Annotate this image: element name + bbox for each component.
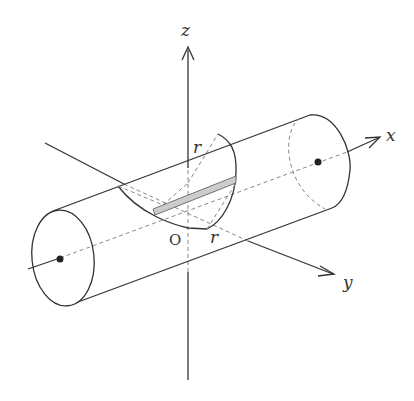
wedge-radius-left bbox=[118, 186, 163, 205]
y-axis-left bbox=[45, 143, 124, 184]
x-axis-label: x bbox=[386, 125, 396, 145]
wedge-strip bbox=[153, 176, 236, 215]
x-axis-right bbox=[347, 138, 378, 152]
cylinder-bottom-edge bbox=[78, 208, 332, 302]
right-center-dot bbox=[315, 159, 322, 166]
z-axis-label: z bbox=[180, 20, 191, 40]
radius-label-top: r bbox=[193, 137, 202, 157]
y-axis-label: y bbox=[342, 272, 353, 292]
x-axis-hidden bbox=[60, 152, 347, 258]
y-axis-right bbox=[248, 241, 333, 274]
origin-label: O bbox=[169, 231, 181, 249]
left-center-dot bbox=[57, 256, 64, 263]
wedge-front-curve bbox=[118, 134, 236, 229]
radius-label-bottom: r bbox=[210, 227, 219, 247]
cylinder-diagram: z y x r O r bbox=[0, 0, 414, 401]
cylinder-top-edge bbox=[53, 115, 310, 211]
